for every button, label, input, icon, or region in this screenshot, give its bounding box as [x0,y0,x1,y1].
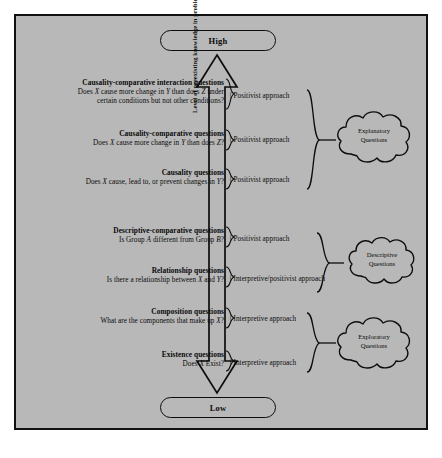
question-title: Relationship questions [28,266,224,276]
approach-text: Interpretive approach [234,359,297,367]
left-brace-icon: { [229,275,232,283]
question-block: Causality-comparative interaction questi… [28,78,224,107]
question-title: Composition questions [28,307,224,317]
question-block: Descriptive-comparative questions Is Gro… [28,226,224,245]
cloud-label-line1: Explanatory [333,127,415,136]
question-example-line1: Does X cause, lead to, or prevent change… [28,178,224,188]
question-example-line1: What are the components that make up X? [28,317,224,327]
question-example-line1: Does X Exist? [28,360,224,370]
axis-label: Level of preexisting knowledge in proble… [191,0,205,136]
approach-label: {Interpretive/positivist approach [229,275,325,283]
question-block: Causality questions Does X cause, lead t… [28,168,224,187]
diagram-canvas: High Low Level of preexisting knowledge … [14,14,428,430]
scale-cap-low: Low [160,397,276,418]
approach-label: {Positivist approach [229,136,289,144]
approach-label: {Positivist approach [229,92,289,100]
approach-text: Interpretive approach [234,315,297,323]
left-brace-icon: { [229,92,232,100]
question-title: Existence questions [28,350,224,360]
question-block: Existence questions Does X Exist? [28,350,224,369]
question-example-line1: Is there a relationship between X and Y? [28,276,224,286]
question-title: Causality-comparative interaction questi… [28,78,224,88]
cloud-label-line2: Questions [345,260,419,269]
cloud-exploratory-questions: Exploratory Questions [333,314,415,376]
question-example-line1: Does X cause more change in Y than does … [28,88,224,98]
question-block: Causality-comparative questions Does X c… [28,129,224,148]
left-brace-icon: { [229,235,232,243]
scale-cap-high-label: High [209,36,228,46]
approach-text: Positivist approach [234,92,290,100]
question-example-line1: Does X cause more change in Y than does … [28,139,224,149]
cloud-label-line1: Exploratory [333,333,415,342]
question-block: Relationship questions Is there a relati… [28,266,224,285]
connector-line-descriptive [329,260,345,266]
question-title: Causality-comparative questions [28,129,224,139]
question-block: Composition questions What are the compo… [28,307,224,326]
cloud-descriptive-questions: Descriptive Questions [345,234,419,290]
approach-text: Positivist approach [234,136,290,144]
approach-label: {Interpretive approach [229,359,296,367]
question-title: Descriptive-comparative questions [28,226,224,236]
approach-label: {Positivist approach [229,235,289,243]
approach-text: Positivist approach [234,235,290,243]
approach-text: Positivist approach [234,176,290,184]
cloud-label-line2: Questions [333,136,415,145]
left-brace-icon: { [229,176,232,184]
cloud-label-line1: Descriptive [345,251,419,260]
question-example-line1: Is Group A different from Group B? [28,236,224,246]
cloud-label-line2: Questions [333,342,415,351]
left-brace-icon: { [229,136,232,144]
scale-cap-high: High [160,30,276,51]
scale-cap-low-label: Low [210,403,227,413]
approach-text: Interpretive/positivist approach [234,275,326,283]
approach-label: {Interpretive approach [229,315,296,323]
question-example-line2: certain conditions but not other conditi… [28,97,224,107]
left-brace-icon: { [229,315,232,323]
left-brace-icon: { [229,359,232,367]
cloud-explanatory-questions: Explanatory Questions [333,108,415,170]
approach-label: {Positivist approach [229,176,289,184]
question-title: Causality questions [28,168,224,178]
